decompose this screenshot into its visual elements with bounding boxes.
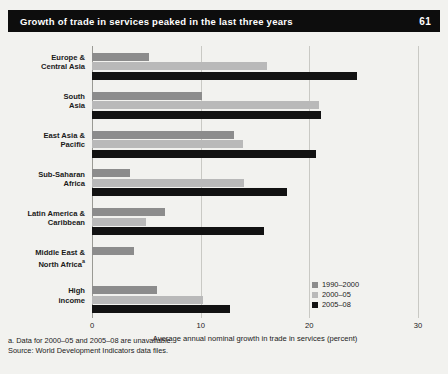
legend-item: 2000–05 <box>312 290 359 299</box>
category-label: East Asia &Pacific <box>0 131 92 149</box>
category-label: Latin America &Caribbean <box>0 209 92 227</box>
page-title: Growth of trade in services peaked in th… <box>20 16 293 27</box>
legend-swatch-icon <box>312 282 318 288</box>
category-group: Middle East &North Africaa <box>92 240 418 279</box>
category-group: Sub-SaharanAfrica <box>92 163 418 202</box>
bar <box>92 62 267 70</box>
bar <box>92 101 319 109</box>
footnote-source: Source: World Development Indicators dat… <box>8 346 440 356</box>
gridline-30 <box>418 46 419 318</box>
category-group: Highincome <box>92 279 418 318</box>
bar <box>92 169 130 177</box>
category-label: Middle East &North Africaa <box>0 248 92 269</box>
bar <box>92 92 202 100</box>
category-label: SouthAsia <box>0 92 92 110</box>
bar <box>92 179 244 187</box>
x-tick-label: 0 <box>90 321 94 330</box>
x-tick-label: 10 <box>196 321 204 330</box>
bar <box>92 188 287 196</box>
x-tick-label: 20 <box>305 321 313 330</box>
bar <box>92 305 230 313</box>
legend-item: 2005–08 <box>312 300 359 309</box>
bar <box>92 131 234 139</box>
chart-legend: 1990–20002000–052005–08 <box>312 280 359 310</box>
legend-swatch-icon <box>312 292 318 298</box>
plot-frame: Europe &Central AsiaSouthAsiaEast Asia &… <box>8 32 440 332</box>
category-group: Europe &Central Asia <box>92 46 418 85</box>
category-group: East Asia &Pacific <box>92 124 418 163</box>
plot-area: Europe &Central AsiaSouthAsiaEast Asia &… <box>92 46 418 318</box>
title-bar: Growth of trade in services peaked in th… <box>8 10 440 32</box>
bar <box>92 140 243 148</box>
bar <box>92 111 321 119</box>
bar <box>92 286 157 294</box>
category-label: Highincome <box>0 286 92 304</box>
footnote-a: a. Data for 2000–05 and 2005–08 are unav… <box>8 336 440 346</box>
bar <box>92 150 316 158</box>
legend-label: 1990–2000 <box>322 280 359 289</box>
footnotes: a. Data for 2000–05 and 2005–08 are unav… <box>8 336 440 356</box>
category-label: Sub-SaharanAfrica <box>0 170 92 188</box>
legend-item: 1990–2000 <box>312 280 359 289</box>
category-group: SouthAsia <box>92 85 418 124</box>
chart-page: Growth of trade in services peaked in th… <box>0 0 448 374</box>
legend-label: 2000–05 <box>322 290 351 299</box>
x-tick-label: 30 <box>414 321 422 330</box>
legend-label: 2005–08 <box>322 300 351 309</box>
page-number: 61 <box>419 16 431 27</box>
category-group: Latin America &Caribbean <box>92 201 418 240</box>
bar <box>92 296 203 304</box>
bar <box>92 247 134 255</box>
legend-swatch-icon <box>312 302 318 308</box>
category-label: Europe &Central Asia <box>0 53 92 71</box>
bar <box>92 218 146 226</box>
bar <box>92 227 264 235</box>
bar <box>92 53 149 61</box>
bar <box>92 208 165 216</box>
bar <box>92 72 357 80</box>
x-axis-tick-row: 0102030 <box>92 321 418 333</box>
